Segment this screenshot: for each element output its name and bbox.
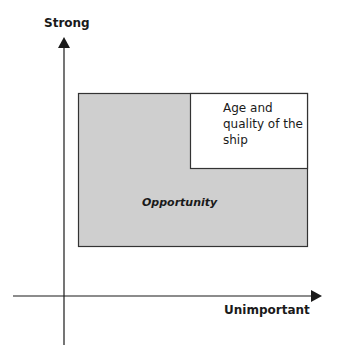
- x-axis-arrow-icon: [311, 290, 322, 302]
- diagram-canvas: [0, 0, 342, 349]
- opportunity-label: Opportunity: [142, 196, 217, 209]
- age-quality-label: Age and quality of the ship: [223, 100, 303, 148]
- y-axis-arrow-icon: [58, 37, 70, 48]
- y-axis-label: Strong: [44, 16, 90, 30]
- x-axis-label: Unimportant: [224, 303, 310, 317]
